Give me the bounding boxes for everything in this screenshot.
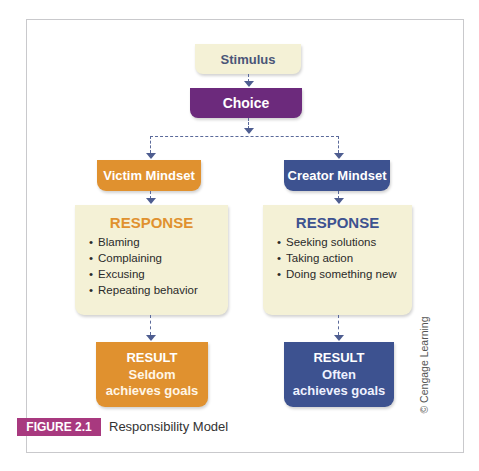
arrow-down-icon: [244, 81, 254, 87]
connector-victim-result: [150, 315, 151, 335]
victim-result-line2: achieves goals: [106, 383, 199, 399]
creator-result-line2: achieves goals: [293, 383, 386, 399]
list-item: Repeating behavior: [89, 282, 198, 298]
arrow-down-icon: [334, 198, 344, 204]
victim-mindset-label: Victim Mindset: [103, 168, 195, 183]
figure-caption: Responsibility Model: [109, 419, 228, 434]
creator-mindset-node: Creator Mindset: [284, 160, 390, 191]
list-item: Complaining: [89, 250, 198, 266]
creator-response-title: RESPONSE: [263, 214, 412, 231]
list-item: Excusing: [89, 266, 198, 282]
stimulus-node: Stimulus: [195, 44, 301, 74]
victim-result-line1: Seldom: [129, 367, 176, 383]
list-item: Doing something new: [277, 266, 397, 282]
victim-result-title: RESULT: [126, 350, 177, 366]
connector-creator-result: [338, 315, 339, 335]
connector-to-victim: [150, 136, 151, 153]
connector-to-creator: [338, 136, 339, 153]
choice-node: Choice: [190, 88, 302, 118]
connector-branch-horizontal: [150, 136, 339, 137]
creator-mindset-label: Creator Mindset: [288, 168, 387, 183]
victim-mindset-node: Victim Mindset: [97, 160, 201, 191]
arrow-down-icon: [146, 198, 156, 204]
victim-response-list: Blaming Complaining Excusing Repeating b…: [75, 234, 198, 298]
creator-result-line1: Often: [322, 367, 356, 383]
arrow-down-icon: [146, 335, 156, 341]
list-item: Taking action: [277, 250, 397, 266]
creator-result-title: RESULT: [313, 350, 364, 366]
figure-label-badge: FIGURE 2.1: [17, 418, 101, 436]
creator-response-box: RESPONSE Seeking solutions Taking action…: [263, 205, 412, 315]
arrow-down-icon: [334, 335, 344, 341]
copyright-notice: © Cengage Learning: [418, 316, 430, 413]
choice-label: Choice: [223, 95, 270, 111]
list-item: Seeking solutions: [277, 234, 397, 250]
arrow-down-icon: [334, 153, 344, 159]
arrow-down-icon: [244, 128, 254, 134]
victim-result-box: RESULT Seldom achieves goals: [96, 342, 208, 407]
creator-result-box: RESULT Often achieves goals: [284, 342, 394, 407]
creator-response-list: Seeking solutions Taking action Doing so…: [263, 234, 397, 282]
list-item: Blaming: [89, 234, 198, 250]
victim-response-title: RESPONSE: [75, 214, 228, 231]
victim-response-box: RESPONSE Blaming Complaining Excusing Re…: [75, 205, 228, 315]
arrow-down-icon: [146, 153, 156, 159]
stimulus-label: Stimulus: [221, 52, 276, 67]
